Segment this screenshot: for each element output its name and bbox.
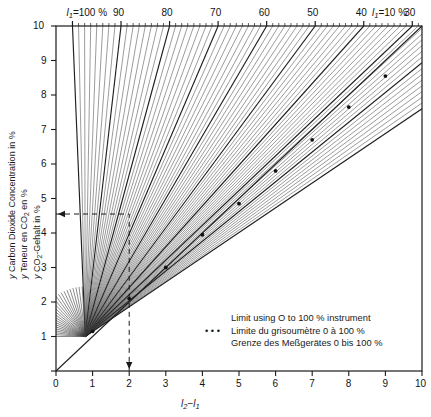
- x-tick-label-8: 8: [346, 379, 352, 389]
- top-tick-label-30: 30: [404, 8, 415, 18]
- y-tick-label-10: 10: [33, 21, 44, 31]
- top-tick-label-60: 60: [259, 8, 270, 18]
- legend-row-fr: • • • Limite du grisoumètre 0 à 100 %: [205, 325, 382, 338]
- x-axis-title: l2−l1: [181, 398, 200, 411]
- x-tick-label-7: 7: [309, 379, 315, 389]
- x-tick-label-3: 3: [163, 379, 169, 389]
- legend-row-de: Grenze des Meßgerätes 0 bis 100 %: [205, 337, 382, 350]
- legend-row-en: Limit using O to 100 % instrument: [205, 312, 382, 325]
- y-axis-title: y Carbon Dioxide Concentration in % y Te…: [7, 59, 45, 279]
- y-axis-title-line-en: y Carbon Dioxide Concentration in %: [7, 59, 19, 279]
- x-tick-label-6: 6: [273, 379, 279, 389]
- legend: Limit using O to 100 % instrument • • • …: [205, 312, 382, 350]
- legend-label-fr: Limite du grisoumètre 0 à 100 %: [231, 325, 365, 338]
- top-label-right: l1=10 %: [372, 8, 407, 19]
- x-tick-label-4: 4: [199, 379, 205, 389]
- y-tick-label-1: 1: [41, 332, 47, 342]
- l1-line-family: [35, 26, 422, 337]
- top-tick-label-70: 70: [210, 8, 221, 18]
- top-tick-label-90: 90: [113, 8, 124, 18]
- chart-figure: l1=100 % l1=10 % 9080706050403020 123456…: [0, 0, 431, 417]
- x-tick-label-5: 5: [236, 379, 242, 389]
- legend-dot-marker: • • •: [205, 325, 231, 338]
- y-axis-title-line-de: y CO2-Gehalt in %: [32, 59, 45, 279]
- x-tick-label-10: 10: [415, 379, 426, 389]
- top-tick-label-40: 40: [356, 8, 367, 18]
- y-axis-title-line-fr: y Teneur en CO2 en %: [19, 59, 32, 279]
- x-tick-label-1: 1: [90, 379, 96, 389]
- nomogram-svg: [0, 0, 431, 417]
- legend-label-en: Limit using O to 100 % instrument: [231, 312, 371, 325]
- legend-label-de: Grenze des Meßgerätes 0 bis 100 %: [231, 337, 382, 350]
- x-tick-label-2: 2: [126, 379, 132, 389]
- x-tick-label-9: 9: [382, 379, 388, 389]
- top-tick-label-80: 80: [162, 8, 173, 18]
- top-tick-label-50: 50: [307, 8, 318, 18]
- y-tick-label-2: 2: [41, 297, 47, 307]
- x-tick-label-0: 0: [53, 379, 59, 389]
- top-label-left: l1=100 %: [66, 8, 107, 19]
